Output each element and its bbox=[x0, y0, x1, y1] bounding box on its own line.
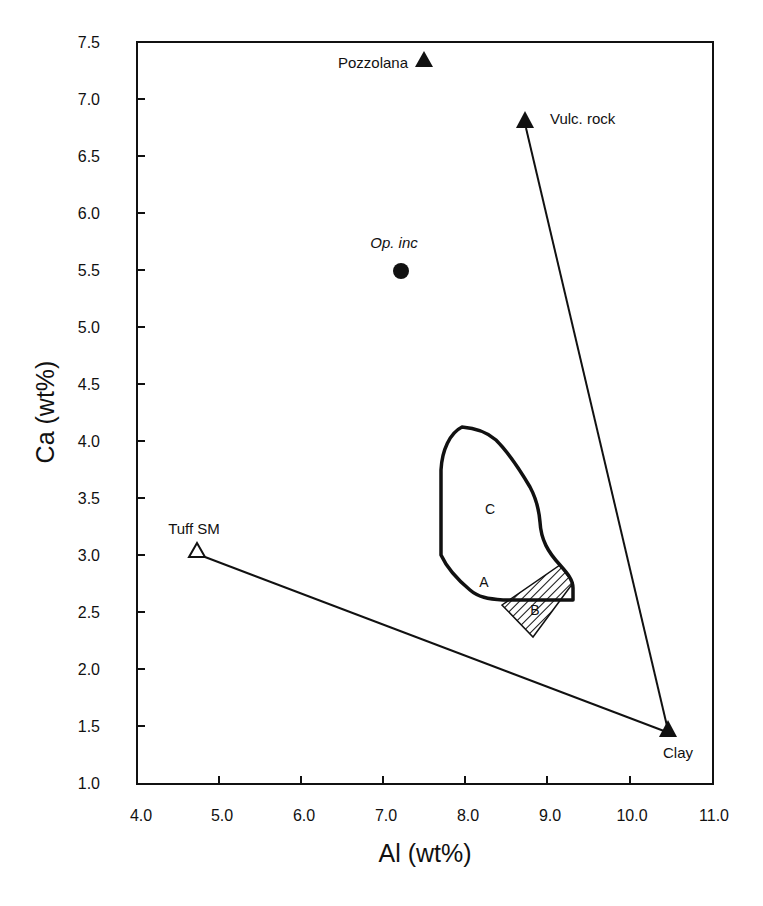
x-tick-label: 10.0 bbox=[616, 807, 647, 824]
clay-label: Clay bbox=[663, 744, 694, 761]
region-c-label: C bbox=[485, 501, 495, 517]
x-axis-ticks bbox=[219, 776, 630, 784]
y-tick-labels: 1.0 1.5 2.0 2.5 3.0 3.5 4.0 4.5 5.0 5.5 … bbox=[78, 34, 100, 792]
y-tick-label: 3.0 bbox=[78, 547, 100, 564]
y-axis-ticks bbox=[137, 99, 145, 726]
op-inc-label: Op. inc bbox=[370, 234, 418, 251]
x-tick-label: 7.0 bbox=[375, 807, 397, 824]
y-tick-label: 1.0 bbox=[78, 775, 100, 792]
x-tick-labels: 4.0 5.0 6.0 7.0 8.0 9.0 10.0 11.0 bbox=[130, 807, 729, 824]
tuff-sm-label: Tuff SM bbox=[168, 520, 220, 537]
y-tick-label: 5.0 bbox=[78, 319, 100, 336]
x-tick-label: 9.0 bbox=[539, 807, 561, 824]
x-tick-label: 8.0 bbox=[457, 807, 479, 824]
y-axis-title: Ca (wt%) bbox=[31, 361, 59, 464]
y-tick-label: 2.0 bbox=[78, 661, 100, 678]
y-tick-label: 6.0 bbox=[78, 205, 100, 222]
vulc-rock-marker bbox=[516, 111, 534, 128]
y-tick-label: 4.5 bbox=[78, 376, 100, 393]
vulc-rock-label: Vulc. rock bbox=[550, 110, 616, 127]
tuff-sm-marker bbox=[189, 543, 205, 557]
region-a-label: A bbox=[479, 574, 489, 590]
y-tick-label: 5.5 bbox=[78, 262, 100, 279]
chart-canvas: 1.0 1.5 2.0 2.5 3.0 3.5 4.0 4.5 5.0 5.5 … bbox=[0, 0, 763, 906]
y-tick-label: 7.0 bbox=[78, 91, 100, 108]
x-tick-label: 6.0 bbox=[293, 807, 315, 824]
x-axis-title: Al (wt%) bbox=[378, 839, 471, 867]
mixing-line-vulc-clay bbox=[526, 128, 667, 726]
plot-frame bbox=[137, 42, 713, 784]
op-inc-marker bbox=[393, 263, 409, 279]
pozzolana-marker bbox=[415, 51, 433, 67]
y-tick-label: 7.5 bbox=[78, 34, 100, 51]
x-tick-label: 5.0 bbox=[211, 807, 233, 824]
y-tick-label: 4.0 bbox=[78, 433, 100, 450]
region-b-label: B bbox=[530, 602, 539, 618]
y-tick-label: 3.5 bbox=[78, 490, 100, 507]
y-tick-label: 6.5 bbox=[78, 148, 100, 165]
pozzolana-label: Pozzolana bbox=[338, 54, 409, 71]
y-tick-label: 1.5 bbox=[78, 718, 100, 735]
x-tick-label: 4.0 bbox=[130, 807, 152, 824]
x-tick-label: 11.0 bbox=[699, 807, 729, 824]
clay-marker bbox=[659, 720, 677, 737]
y-tick-label: 2.5 bbox=[78, 604, 100, 621]
mixing-line-tuff-clay bbox=[205, 557, 664, 731]
